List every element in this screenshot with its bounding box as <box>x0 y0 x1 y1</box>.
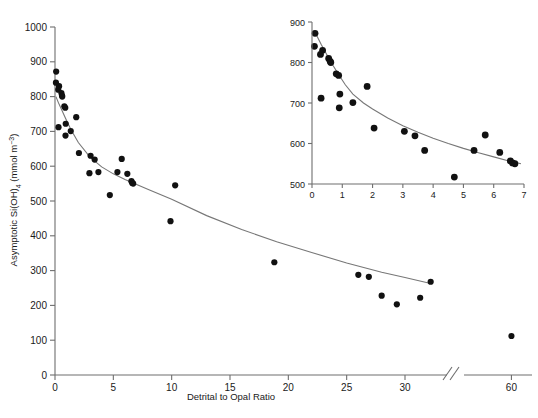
data-point <box>68 128 74 134</box>
data-point <box>364 83 371 90</box>
x-axis-title: Detrital to Opal Ratio <box>187 391 275 402</box>
data-point <box>327 59 334 66</box>
figure-container: 05101520253060 0100200300400500600700800… <box>0 0 538 418</box>
inset-x-tick-label: 2 <box>370 190 375 200</box>
data-point <box>417 295 423 301</box>
data-point <box>471 147 478 154</box>
data-point <box>336 104 343 111</box>
data-point <box>508 333 514 339</box>
main-x-tick-label: 5 <box>111 382 117 393</box>
axis-break-slash-2 <box>450 367 459 380</box>
data-point <box>355 272 361 278</box>
data-point <box>451 174 458 181</box>
main-x-tick-label: 10 <box>166 382 178 393</box>
data-point <box>349 99 356 106</box>
inset-data-points <box>311 30 518 181</box>
svg-text:Asymptotic Si(OH)4 (mmol m−3): Asymptotic Si(OH)4 (mmol m−3) <box>8 134 22 267</box>
main-x-tick-label: 25 <box>341 382 353 393</box>
main-y-tick-label: 300 <box>30 265 47 276</box>
data-point <box>167 218 173 224</box>
data-point <box>55 124 61 130</box>
inset-x-tick-label: 5 <box>461 190 466 200</box>
main-x-tick-label: 60 <box>506 382 518 393</box>
data-point <box>124 171 130 177</box>
main-y-tick-label: 400 <box>30 230 47 241</box>
data-point <box>271 259 277 265</box>
main-y-tick-group: 01002003004005006007008009001000 <box>25 22 55 381</box>
data-point <box>379 293 385 299</box>
data-point <box>62 132 68 138</box>
main-y-tick-label: 1000 <box>25 22 48 33</box>
y-axis-title-prefix: Asymptotic Si(OH) <box>8 188 19 266</box>
inset-frame <box>312 22 524 184</box>
data-point <box>59 94 65 100</box>
data-point <box>317 51 324 58</box>
data-point <box>130 181 136 187</box>
inset-y-tick-label: 800 <box>290 58 305 68</box>
scatter-chart: 05101520253060 0100200300400500600700800… <box>0 0 538 418</box>
y-axis-title: Asymptotic Si(OH)4 (mmol m−3) <box>8 134 22 267</box>
data-point <box>312 30 319 37</box>
inset-plot: 01234567 500600700800900 <box>290 18 527 201</box>
y-axis-title-suffix: ) <box>8 134 19 137</box>
inset-y-tick-group: 500600700800900 <box>290 18 312 190</box>
inset-x-tick-label: 1 <box>340 190 345 200</box>
data-point <box>119 156 125 162</box>
main-data-points <box>53 68 515 339</box>
data-point <box>421 147 428 154</box>
data-point <box>114 169 120 175</box>
inset-x-tick-label: 0 <box>309 190 314 200</box>
data-point <box>62 105 68 111</box>
inset-y-tick-label: 900 <box>290 18 305 28</box>
main-y-tick-label: 900 <box>30 56 47 67</box>
main-y-tick-label: 700 <box>30 126 47 137</box>
main-y-tick-label: 0 <box>41 370 47 381</box>
main-x-tick-label: 20 <box>283 382 295 393</box>
main-y-tick-label: 100 <box>30 335 47 346</box>
data-point <box>336 91 343 98</box>
data-point <box>412 132 419 139</box>
inset-fit-curve <box>314 31 521 164</box>
inset-x-tick-label: 6 <box>491 190 496 200</box>
inset-y-tick-label: 700 <box>290 99 305 109</box>
data-point <box>86 170 92 176</box>
data-point <box>496 149 503 156</box>
data-point <box>335 72 342 79</box>
data-point <box>394 301 400 307</box>
inset-x-tick-label: 7 <box>521 190 526 200</box>
data-point <box>318 95 325 102</box>
main-y-tick-label: 800 <box>30 91 47 102</box>
main-x-tick-label: 30 <box>399 382 411 393</box>
main-y-tick-label: 200 <box>30 300 47 311</box>
inset-x-tick-label: 3 <box>400 190 405 200</box>
data-point <box>371 125 378 132</box>
axis-break-slash-1 <box>443 367 452 380</box>
main-x-tick-label: 0 <box>52 382 58 393</box>
main-y-tick-label: 500 <box>30 196 47 207</box>
data-point <box>172 182 178 188</box>
data-point <box>95 169 101 175</box>
main-plot: 05101520253060 0100200300400500600700800… <box>25 22 532 394</box>
data-point <box>76 150 82 156</box>
data-point <box>73 114 79 120</box>
main-axes <box>55 27 532 375</box>
data-point <box>512 160 519 167</box>
y-axis-title-superscript: −3 <box>8 137 15 145</box>
data-point <box>482 132 489 139</box>
inset-x-tick-label: 4 <box>431 190 436 200</box>
main-x-tick-group: 05101520253060 <box>52 375 517 393</box>
data-point <box>107 192 113 198</box>
inset-y-tick-label: 600 <box>290 139 305 149</box>
inset-x-tick-group: 01234567 <box>309 184 526 200</box>
inset-y-tick-label: 500 <box>290 180 305 190</box>
main-y-tick-label: 600 <box>30 161 47 172</box>
data-point <box>366 274 372 280</box>
y-axis-title-mid: (mmol m <box>8 145 19 185</box>
data-point <box>428 279 434 285</box>
data-point <box>63 121 69 127</box>
data-point <box>92 156 98 162</box>
data-point <box>53 68 59 74</box>
data-point <box>401 128 408 135</box>
axis-break-mark <box>443 367 459 380</box>
